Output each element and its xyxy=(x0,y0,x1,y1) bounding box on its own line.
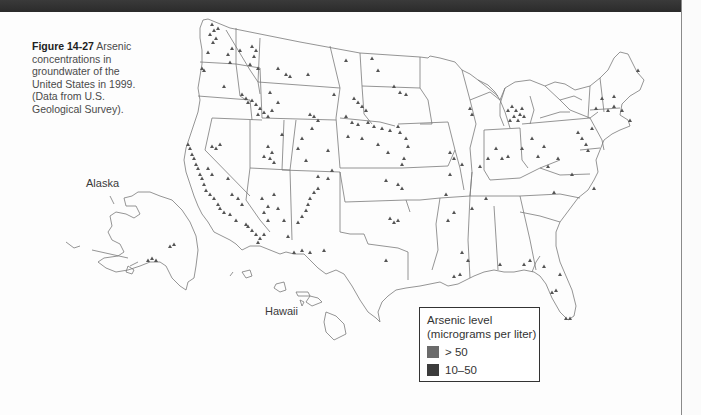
us-outline xyxy=(184,19,644,322)
legend-item-high: > 50 xyxy=(427,345,539,359)
marker-cluster-alaska xyxy=(146,243,176,263)
marker-cluster-east xyxy=(444,69,640,321)
arsenic-map xyxy=(0,0,681,415)
marker-cluster-southwest xyxy=(246,187,326,255)
hawaii-label: Hawaii xyxy=(265,305,298,317)
legend: Arsenic level (micrograms per liter) > 5… xyxy=(419,307,540,382)
legend-title-line2: (micrograms per liter) xyxy=(427,327,539,341)
alaska-outline xyxy=(66,192,198,290)
alaska-label: Alaska xyxy=(86,177,119,189)
legend-title-line1: Arsenic level xyxy=(427,313,539,327)
page-margin xyxy=(682,0,701,415)
legend-label-high: > 50 xyxy=(445,345,468,359)
legend-swatch-high xyxy=(427,346,439,358)
state-outlines xyxy=(184,19,644,322)
legend-item-mid: 10–50 xyxy=(427,363,539,377)
marker-cluster-mountain xyxy=(262,127,334,181)
legend-label-mid: 10–50 xyxy=(445,363,477,377)
legend-swatch-mid xyxy=(427,364,439,376)
